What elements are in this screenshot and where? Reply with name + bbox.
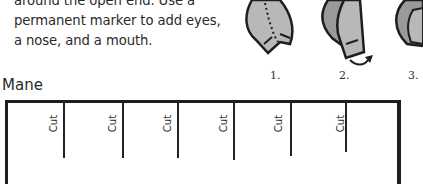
instruction-line: a nose, and a mouth. <box>14 31 221 51</box>
cut-line <box>290 100 292 156</box>
cut-line <box>177 100 179 158</box>
cut-label: Cut <box>218 115 229 132</box>
cut-label: Cut <box>107 115 118 132</box>
instruction-line: around the open end. Use a <box>14 0 221 11</box>
mane-title: Mane <box>2 76 43 94</box>
cut-label: Cut <box>273 115 284 132</box>
cut-line <box>233 100 235 160</box>
instructions-text: around the open end. Use a permanent mar… <box>14 0 221 51</box>
cut-label: Cut <box>335 115 346 132</box>
cut-line <box>63 100 65 158</box>
cut-label: Cut <box>162 115 173 132</box>
step-1-leaf-illustration <box>240 0 310 60</box>
instruction-line: permanent marker to add eyes, <box>14 11 221 31</box>
step-label-2: 2. <box>339 69 350 82</box>
step-label-3: 3. <box>408 69 419 82</box>
step-label-1: 1. <box>270 69 281 82</box>
cut-line <box>122 100 124 158</box>
step-3-leaf-illustration <box>393 0 423 50</box>
cut-label: Cut <box>48 115 59 132</box>
arrow-icon <box>348 54 376 68</box>
